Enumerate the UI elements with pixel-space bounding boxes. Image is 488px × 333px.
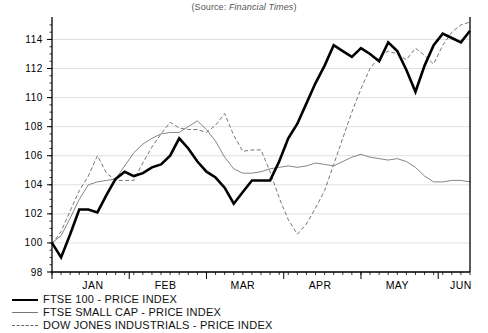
y-tick-label: 100 — [25, 237, 44, 248]
legend-swatch-dow-jones — [12, 319, 38, 331]
chart-page: (Source: Financial Times) 98100102104106… — [0, 0, 488, 333]
chart-legend: FTSE 100 - PRICE INDEX FTSE SMALL CAP - … — [12, 292, 482, 331]
series-line-dow-jones — [52, 22, 470, 244]
y-tick-label: 106 — [25, 150, 44, 161]
legend-swatch-ftse-small-cap — [12, 306, 38, 318]
y-tick-label: 102 — [25, 208, 44, 219]
series-line-ftse100 — [52, 31, 470, 258]
legend-label-ftse100: FTSE 100 - PRICE INDEX — [43, 293, 177, 305]
x-tick-label: JUN — [450, 279, 472, 290]
y-tick-label: 114 — [25, 34, 43, 45]
line-chart: 98100102104106108110112114 JANFEBMARAPRM… — [0, 0, 488, 290]
y-tick-label: 104 — [25, 179, 44, 190]
y-tick-label: 112 — [25, 63, 43, 74]
data-series-group — [52, 22, 470, 257]
legend-swatch-ftse100 — [12, 293, 38, 305]
y-axis-tick-labels: 98100102104106108110112114 — [25, 34, 44, 278]
y-axis-ticks — [47, 25, 52, 272]
legend-item: FTSE SMALL CAP - PRICE INDEX — [12, 305, 482, 318]
legend-item: FTSE 100 - PRICE INDEX — [12, 292, 482, 305]
x-axis-ticks — [52, 272, 470, 279]
x-tick-label: JAN — [82, 279, 103, 290]
legend-label-ftse-small-cap: FTSE SMALL CAP - PRICE INDEX — [43, 306, 221, 318]
legend-label-dow-jones: DOW JONES INDUSTRIALS - PRICE INDEX — [43, 319, 272, 331]
x-tick-label: APR — [309, 279, 332, 290]
x-axis-tick-labels: JANFEBMARAPRMAYJUN — [82, 279, 471, 290]
x-tick-label: MAR — [231, 279, 256, 290]
x-tick-label: FEB — [155, 279, 177, 290]
x-tick-label: MAY — [386, 279, 409, 290]
legend-item: DOW JONES INDUSTRIALS - PRICE INDEX — [12, 318, 482, 331]
y-tick-label: 98 — [31, 267, 43, 278]
y-tick-label: 110 — [25, 92, 43, 103]
y-tick-label: 108 — [25, 121, 44, 132]
